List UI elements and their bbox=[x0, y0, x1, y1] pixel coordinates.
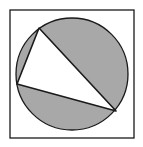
geometry-diagram bbox=[0, 0, 143, 147]
